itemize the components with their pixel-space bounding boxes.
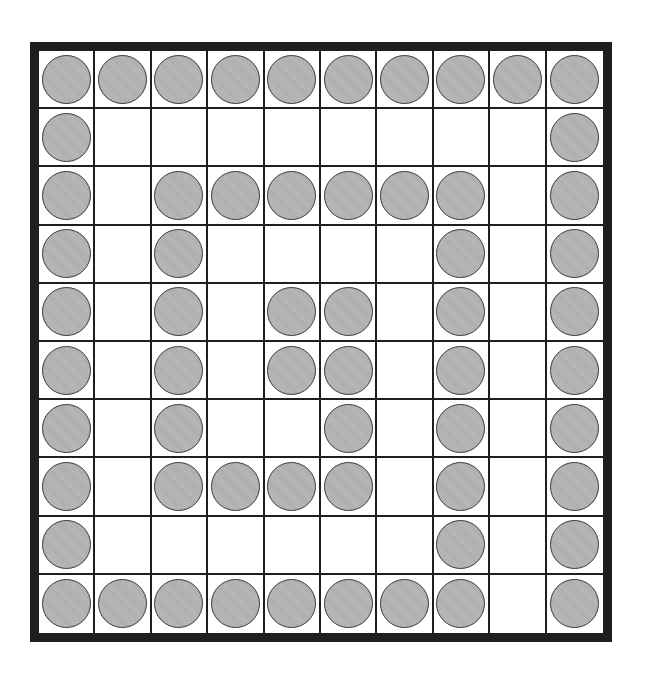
game-piece-icon[interactable] (550, 346, 599, 395)
board-cell-r9-c0[interactable] (39, 575, 95, 633)
board-cell-r3-c5[interactable] (321, 226, 377, 284)
board-cell-r2-c1[interactable] (95, 167, 151, 225)
game-piece-icon[interactable] (154, 171, 203, 220)
board-cell-r1-c4[interactable] (265, 109, 321, 167)
game-piece-icon[interactable] (324, 404, 373, 453)
board-cell-r5-c6[interactable] (377, 342, 433, 400)
board-cell-r8-c6[interactable] (377, 517, 433, 575)
board-cell-r5-c1[interactable] (95, 342, 151, 400)
board-cell-r4-c0[interactable] (39, 284, 95, 342)
board-cell-r4-c5[interactable] (321, 284, 377, 342)
board-cell-r9-c7[interactable] (434, 575, 490, 633)
board-cell-r9-c8[interactable] (490, 575, 546, 633)
board-cell-r8-c1[interactable] (95, 517, 151, 575)
board-cell-r3-c8[interactable] (490, 226, 546, 284)
game-piece-icon[interactable] (324, 171, 373, 220)
game-piece-icon[interactable] (42, 579, 91, 628)
game-piece-icon[interactable] (154, 287, 203, 336)
board-cell-r2-c9[interactable] (547, 167, 603, 225)
game-piece-icon[interactable] (324, 287, 373, 336)
game-piece-icon[interactable] (42, 520, 91, 569)
game-piece-icon[interactable] (324, 579, 373, 628)
game-piece-icon[interactable] (154, 55, 203, 104)
game-piece-icon[interactable] (436, 579, 485, 628)
board-cell-r8-c2[interactable] (152, 517, 208, 575)
game-piece-icon[interactable] (154, 404, 203, 453)
board-cell-r5-c4[interactable] (265, 342, 321, 400)
game-piece-icon[interactable] (42, 229, 91, 278)
board-cell-r6-c7[interactable] (434, 400, 490, 458)
game-piece-icon[interactable] (436, 462, 485, 511)
game-piece-icon[interactable] (550, 171, 599, 220)
board-cell-r5-c9[interactable] (547, 342, 603, 400)
board-cell-r6-c3[interactable] (208, 400, 264, 458)
board-cell-r5-c7[interactable] (434, 342, 490, 400)
game-piece-icon[interactable] (42, 113, 91, 162)
game-piece-icon[interactable] (267, 55, 316, 104)
board-cell-r7-c9[interactable] (547, 458, 603, 516)
game-piece-icon[interactable] (42, 171, 91, 220)
game-piece-icon[interactable] (98, 579, 147, 628)
game-piece-icon[interactable] (98, 55, 147, 104)
board-cell-r3-c3[interactable] (208, 226, 264, 284)
game-piece-icon[interactable] (436, 404, 485, 453)
board-cell-r9-c9[interactable] (547, 575, 603, 633)
board-cell-r6-c1[interactable] (95, 400, 151, 458)
game-piece-icon[interactable] (550, 287, 599, 336)
board-cell-r4-c1[interactable] (95, 284, 151, 342)
game-piece-icon[interactable] (380, 55, 429, 104)
game-piece-icon[interactable] (42, 462, 91, 511)
board-cell-r7-c5[interactable] (321, 458, 377, 516)
game-piece-icon[interactable] (154, 462, 203, 511)
game-piece-icon[interactable] (211, 171, 260, 220)
board-cell-r6-c2[interactable] (152, 400, 208, 458)
board-cell-r8-c5[interactable] (321, 517, 377, 575)
game-piece-icon[interactable] (42, 404, 91, 453)
board-cell-r4-c2[interactable] (152, 284, 208, 342)
board-cell-r3-c4[interactable] (265, 226, 321, 284)
game-piece-icon[interactable] (550, 520, 599, 569)
board-cell-r8-c9[interactable] (547, 517, 603, 575)
game-piece-icon[interactable] (550, 113, 599, 162)
board-cell-r0-c2[interactable] (152, 51, 208, 109)
board-cell-r6-c0[interactable] (39, 400, 95, 458)
game-piece-icon[interactable] (324, 346, 373, 395)
game-piece-icon[interactable] (550, 404, 599, 453)
board-cell-r2-c3[interactable] (208, 167, 264, 225)
game-piece-icon[interactable] (380, 171, 429, 220)
board-cell-r5-c2[interactable] (152, 342, 208, 400)
board-cell-r2-c6[interactable] (377, 167, 433, 225)
board-cell-r0-c5[interactable] (321, 51, 377, 109)
game-piece-icon[interactable] (493, 55, 542, 104)
board-cell-r7-c7[interactable] (434, 458, 490, 516)
game-piece-icon[interactable] (211, 462, 260, 511)
board-cell-r1-c3[interactable] (208, 109, 264, 167)
game-piece-icon[interactable] (267, 287, 316, 336)
board-cell-r1-c8[interactable] (490, 109, 546, 167)
board-cell-r9-c5[interactable] (321, 575, 377, 633)
board-cell-r0-c4[interactable] (265, 51, 321, 109)
board-cell-r2-c0[interactable] (39, 167, 95, 225)
game-piece-icon[interactable] (436, 287, 485, 336)
game-piece-icon[interactable] (267, 346, 316, 395)
board-cell-r1-c2[interactable] (152, 109, 208, 167)
board-cell-r8-c0[interactable] (39, 517, 95, 575)
board-cell-r8-c8[interactable] (490, 517, 546, 575)
board-cell-r1-c0[interactable] (39, 109, 95, 167)
game-piece-icon[interactable] (211, 55, 260, 104)
board-cell-r8-c4[interactable] (265, 517, 321, 575)
board-cell-r2-c8[interactable] (490, 167, 546, 225)
game-piece-icon[interactable] (154, 579, 203, 628)
board-cell-r5-c5[interactable] (321, 342, 377, 400)
board-cell-r4-c7[interactable] (434, 284, 490, 342)
game-piece-icon[interactable] (550, 55, 599, 104)
game-piece-icon[interactable] (436, 171, 485, 220)
board-cell-r9-c4[interactable] (265, 575, 321, 633)
game-piece-icon[interactable] (267, 171, 316, 220)
board-cell-r1-c5[interactable] (321, 109, 377, 167)
board-cell-r6-c5[interactable] (321, 400, 377, 458)
game-piece-icon[interactable] (211, 579, 260, 628)
game-piece-icon[interactable] (154, 346, 203, 395)
board-cell-r0-c8[interactable] (490, 51, 546, 109)
game-piece-icon[interactable] (380, 579, 429, 628)
